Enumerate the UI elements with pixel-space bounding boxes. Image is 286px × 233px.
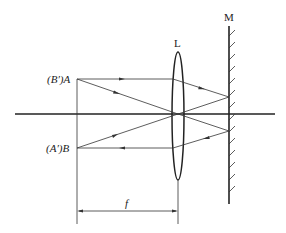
focal-length-dimension [77, 210, 178, 213]
label-mirror: M [224, 12, 234, 23]
label-lens: L [174, 38, 181, 49]
label-point-b: (A′)B [46, 143, 69, 154]
label-focal-length: f [125, 198, 128, 209]
mirror-M [229, 26, 235, 204]
optics-diagram: M L (B′)A (A′)B f [0, 0, 286, 233]
lens-L [172, 52, 184, 180]
diagram-svg [0, 0, 286, 233]
label-point-a: (B′)A [47, 74, 70, 85]
